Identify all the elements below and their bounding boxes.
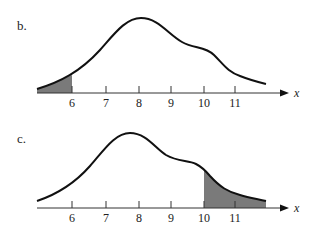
panel-b-label: b. [17,18,27,33]
diagram-canvas: b. x 6 7 8 9 10 11 c. [0,0,326,240]
tick-label: 9 [168,211,174,225]
tick-label: 7 [103,211,109,225]
panel-b: b. x 6 7 8 9 10 11 [17,18,300,110]
panel-b-ticks [72,86,235,93]
panel-b-axis-label: x [293,86,300,100]
tick-label: 11 [229,96,241,110]
tick-label: 9 [168,96,174,110]
panel-c-label: c. [17,131,26,146]
tick-label: 10 [198,211,210,225]
panel-b-tick-labels: 6 7 8 9 10 11 [69,96,241,110]
panel-b-axis-arrow-icon [280,90,289,97]
tick-label: 10 [198,96,210,110]
panel-c-axis-label: x [293,201,300,215]
panel-c: c. x 6 7 8 9 10 11 [17,131,300,225]
panel-c-axis-arrow-icon [280,205,289,212]
panel-c-density-curve [37,133,266,201]
panel-c-tick-labels: 6 7 8 9 10 11 [69,211,241,225]
tick-label: 8 [136,211,142,225]
tick-label: 6 [69,211,75,225]
tick-label: 8 [136,96,142,110]
tick-label: 7 [103,96,109,110]
tick-label: 11 [229,211,241,225]
tick-label: 6 [69,96,75,110]
